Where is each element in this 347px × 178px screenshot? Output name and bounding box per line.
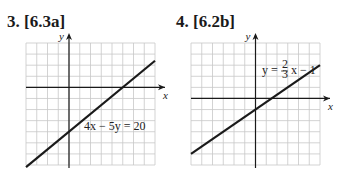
equation-label: 4x − 5y = 20 [84,119,146,133]
fraction-denominator: 3 [282,67,288,81]
graph-4: xyy =23x − 1 [191,30,333,168]
y-axis-label: y [58,30,64,42]
graphs-canvas: xy4x − 5y = 20 xyy =23x − 1 [0,0,347,178]
graph-3: xy4x − 5y = 20 [26,30,168,168]
y-axis-label: y [245,30,251,42]
x-axis-label: x [327,100,333,112]
equation-label: y =23x − 1 [262,57,316,81]
equation-rhs: x − 1 [291,63,316,77]
equation-lhs: y = [262,63,278,77]
x-axis-label: x [162,89,168,101]
